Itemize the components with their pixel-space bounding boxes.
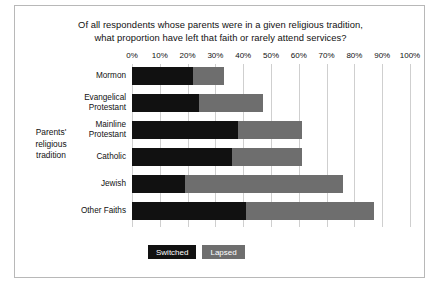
bar-segment-switched	[132, 67, 193, 85]
category-label-line: Protestant	[55, 130, 126, 140]
category-label-mainline-protestant: MainlineProtestant	[55, 120, 126, 140]
chart-title: Of all respondents whose parents were in…	[15, 18, 426, 44]
plot-area	[132, 64, 410, 227]
category-label-line: Evangelical	[55, 93, 126, 103]
x-axis-tick-10: 10%	[152, 50, 168, 61]
bar-row	[132, 121, 410, 139]
bar-segment-lapsed	[246, 202, 374, 220]
bar-segment-switched	[132, 121, 238, 139]
category-labels: MormonEvangelicalProtestantMainlineProte…	[55, 64, 126, 227]
bar-segment-lapsed	[238, 121, 302, 139]
bar-row	[132, 94, 410, 112]
category-label-line: Mormon	[55, 71, 126, 81]
bar-row	[132, 148, 410, 166]
category-label-mormon: Mormon	[55, 71, 126, 81]
x-axis-tick-0: 0%	[126, 50, 138, 61]
bar-segment-switched	[132, 148, 232, 166]
x-axis-tick-90: 90%	[374, 50, 390, 61]
category-label-line: Other Faiths	[55, 206, 126, 216]
bar-row	[132, 175, 410, 193]
bar-segment-switched	[132, 94, 199, 112]
x-axis-tick-50: 50%	[263, 50, 279, 61]
legend-item-lapsed[interactable]: Lapsed	[202, 245, 244, 259]
bar-row	[132, 67, 410, 85]
chart-legend: SwitchedLapsed	[148, 245, 245, 259]
x-axis-tick-100: 100%	[400, 50, 420, 61]
bar-segment-switched	[132, 202, 246, 220]
category-label-jewish: Jewish	[55, 179, 126, 189]
category-label-line: Mainline	[55, 120, 126, 130]
bar-row	[132, 202, 410, 220]
bar-segment-lapsed	[185, 175, 343, 193]
bar-segment-lapsed	[199, 94, 263, 112]
category-label-line: Catholic	[55, 152, 126, 162]
category-label-line: Jewish	[55, 179, 126, 189]
chart-title-line-1: Of all respondents whose parents were in…	[15, 18, 426, 31]
chart-title-line-2: what proportion have left that faith or …	[15, 31, 426, 44]
bar-segment-lapsed	[232, 148, 302, 166]
bar-segment-switched	[132, 175, 185, 193]
x-axis-tick-labels: 0%10%20%30%40%50%60%70%80%90%100%	[132, 50, 410, 63]
category-label-evangelical-protestant: EvangelicalProtestant	[55, 93, 126, 113]
chart-frame: Of all respondents whose parents were in…	[14, 5, 425, 278]
x-axis-tick-80: 80%	[346, 50, 362, 61]
gridline-100	[410, 64, 411, 227]
x-axis-tick-60: 60%	[291, 50, 307, 61]
x-axis-tick-30: 30%	[207, 50, 223, 61]
x-axis-tick-40: 40%	[235, 50, 251, 61]
category-label-catholic: Catholic	[55, 152, 126, 162]
category-label-line: Protestant	[55, 103, 126, 113]
category-label-other-faiths: Other Faiths	[55, 206, 126, 216]
x-axis-tick-20: 20%	[180, 50, 196, 61]
bar-segment-lapsed	[193, 67, 224, 85]
x-axis-tick-70: 70%	[319, 50, 335, 61]
legend-item-switched[interactable]: Switched	[148, 245, 196, 259]
